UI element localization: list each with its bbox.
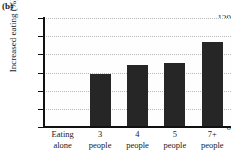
- x-axis-tick-label-line: people: [156, 140, 193, 151]
- gridline: [44, 18, 231, 19]
- plot-area: [44, 18, 231, 127]
- x-axis-tick-label-line: people: [81, 140, 118, 151]
- x-axis-tick-label: 4people: [119, 129, 156, 150]
- x-axis-tick-label-line: 5: [156, 129, 193, 140]
- x-axis-tick-label-line: people: [194, 140, 231, 151]
- x-axis-tick-label-line: alone: [44, 140, 81, 151]
- x-axis-tick-label: 5people: [156, 129, 193, 150]
- x-axis-tick-label-line: people: [119, 140, 156, 151]
- bar: [127, 65, 148, 127]
- x-axis-tick-label-line: 7+: [194, 129, 231, 140]
- y-axis-title-text: Increased eating (%): [7, 0, 19, 83]
- bar: [202, 42, 223, 127]
- x-axis-tick-label: 3people: [81, 129, 118, 150]
- bar: [164, 63, 185, 127]
- y-axis-line: [43, 17, 45, 128]
- bar: [90, 74, 111, 127]
- x-axis-line: [43, 126, 231, 128]
- x-axis-tick-labels: Eatingalone3people4people5people7+people: [44, 129, 231, 158]
- gridline: [44, 36, 231, 37]
- x-axis-tick-label-line: 3: [81, 129, 118, 140]
- x-axis-tick-label-line: 4: [119, 129, 156, 140]
- figure-panel-b: (b) Increased eating (%) 020406080100120…: [0, 0, 231, 158]
- x-axis-tick-label: Eatingalone: [44, 129, 81, 150]
- x-axis-tick-label: 7+people: [194, 129, 231, 150]
- x-axis-tick-label-line: Eating: [44, 129, 81, 140]
- y-axis-title: Increased eating (%): [7, 0, 21, 83]
